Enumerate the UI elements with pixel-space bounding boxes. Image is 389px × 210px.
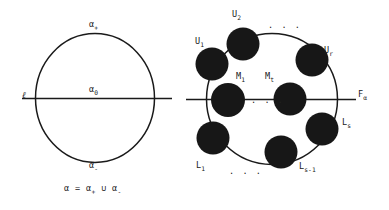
label-alpha-minus-sub: - <box>94 165 98 172</box>
label-M1-sub: 1 <box>241 76 245 83</box>
caption-part1: α = α <box>64 183 92 193</box>
label-Ur-sub: r <box>329 50 333 57</box>
label-F-alpha: Fα <box>358 90 367 101</box>
label-Mt-sub: t <box>270 76 274 83</box>
label-Ls-sub: s <box>347 122 351 129</box>
label-Ls-1-sub: s-1 <box>304 166 315 173</box>
disk-L1 <box>197 122 230 155</box>
label-alpha-plus: α+ <box>89 20 98 31</box>
ellipsis-upper-arc: . . . <box>268 20 302 30</box>
label-alpha-minus: α- <box>89 161 98 172</box>
label-Ls: Ls <box>342 118 351 129</box>
ellipsis-middle-axis: . . . <box>251 95 285 105</box>
caption-sub-minus: - <box>117 188 121 195</box>
line-label-ell: ℓ <box>22 90 26 100</box>
disk-U1 <box>196 48 229 81</box>
figure-root: ℓ α+ α- α0 α = α+ ∪ α- U1 U2 Ur M1 Mt L1… <box>0 0 389 210</box>
disk-M1 <box>211 83 245 117</box>
label-M1: M1 <box>236 72 245 83</box>
label-Mt: Mt <box>265 72 274 83</box>
label-Ls-1: Ls-1 <box>299 162 316 173</box>
caption-part2: ∪ α <box>95 183 117 193</box>
label-alpha-zero-sub: 0 <box>94 89 98 96</box>
label-alpha-zero: α0 <box>89 85 98 96</box>
disk-Ls-1 <box>265 136 298 169</box>
label-L1-sub: 1 <box>201 165 205 172</box>
label-U1: U1 <box>195 37 204 48</box>
left-diagram-group <box>22 34 172 163</box>
label-Ur: Ur <box>324 46 333 57</box>
caption-alpha-union: α = α+ ∪ α- <box>64 183 121 195</box>
label-U2-sub: 2 <box>237 14 241 21</box>
label-U1-sub: 1 <box>200 41 204 48</box>
disk-Ls <box>306 113 339 146</box>
disk-U2 <box>227 28 260 61</box>
ellipsis-lower-arc: . . . <box>229 166 263 176</box>
label-F-alpha-sub: α <box>363 94 367 101</box>
label-U2: U2 <box>232 10 241 21</box>
label-L1: L1 <box>196 161 205 172</box>
figure-canvas <box>0 0 389 210</box>
label-alpha-plus-sub: + <box>94 24 98 31</box>
